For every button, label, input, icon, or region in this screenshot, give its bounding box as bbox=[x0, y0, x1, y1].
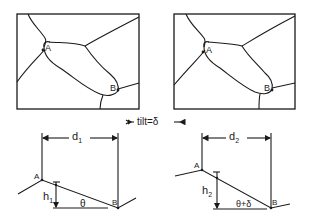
tilt-diagram bbox=[0, 0, 309, 220]
micrograph-panel-right bbox=[174, 14, 295, 109]
distance-subscript: 2 bbox=[235, 137, 239, 144]
height-subscript: 2 bbox=[208, 191, 212, 198]
distance-subscript: 1 bbox=[78, 137, 82, 144]
panel-frame bbox=[17, 14, 139, 109]
panel-frame bbox=[174, 14, 295, 109]
point-a-label: A bbox=[45, 43, 51, 53]
point-a-label: A bbox=[34, 172, 39, 181]
micrograph-panel-left bbox=[17, 14, 139, 109]
point-b-label: B bbox=[112, 198, 117, 207]
height-label: h2 bbox=[202, 184, 212, 198]
distance-label: d2 bbox=[229, 130, 239, 144]
point-b-label: B bbox=[264, 83, 270, 93]
point-a-marker bbox=[42, 49, 45, 52]
height-subscript: 1 bbox=[49, 197, 53, 204]
point-b-marker bbox=[117, 89, 120, 92]
height-label: h1 bbox=[43, 190, 53, 204]
point-a-label: A bbox=[194, 161, 199, 170]
point-b-marker bbox=[271, 89, 274, 92]
point-a-label: A bbox=[206, 45, 212, 55]
point-b-label: B bbox=[272, 198, 277, 207]
point-b-label: B bbox=[110, 83, 116, 93]
point-a-marker bbox=[202, 51, 205, 54]
angle-label: θ bbox=[80, 198, 86, 209]
angle-label: θ+δ bbox=[236, 199, 251, 209]
tilt-label: tilt=δ bbox=[137, 116, 158, 127]
distance-label: d1 bbox=[72, 130, 82, 144]
